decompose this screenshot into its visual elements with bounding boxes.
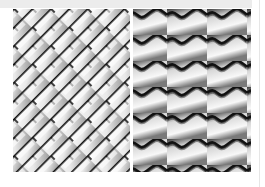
wavy-tile-texture-panel [133, 9, 251, 172]
diagonal-brick-texture-panel [13, 9, 130, 172]
diagonal-brick-pattern [13, 9, 130, 172]
right-edge-rule [259, 0, 260, 187]
top-band [0, 0, 252, 8]
wavy-tile-pattern [133, 9, 251, 172]
